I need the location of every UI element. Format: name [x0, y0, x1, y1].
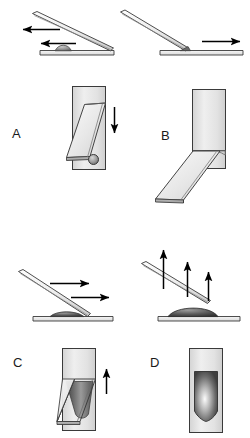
panel-a-base-plate: [40, 51, 114, 56]
panel-d-base-plate: [158, 317, 240, 322]
panel-a-top-view: [23, 12, 114, 56]
panel-b-tilted-rod: [121, 10, 191, 51]
panel-d: [142, 250, 241, 433]
panel-d-droplet: [195, 372, 218, 422]
panel-label-b: B: [161, 128, 170, 143]
panel-b-swung-plate: [156, 151, 221, 203]
panel-a-base-bump: [55, 45, 72, 51]
panel-a-tilted-rod: [33, 12, 114, 51]
panel-d-base-dome: [168, 308, 218, 317]
panel-label-a: A: [12, 126, 21, 141]
panel-b-top-view: [121, 10, 244, 55]
figure-canvas: A B C D: [0, 0, 250, 438]
panel-b-cross-section: [156, 90, 226, 204]
panel-c: [19, 270, 114, 431]
panel-c-tilted-rod: [19, 270, 91, 317]
panel-c-base-bump: [50, 312, 84, 317]
panel-c-cross-section: [57, 349, 107, 431]
panel-b-base-plate: [160, 51, 243, 56]
panel-d-top-view: [142, 250, 241, 321]
panel-label-d: D: [150, 355, 160, 370]
panel-a-cross-section: [67, 87, 115, 170]
panel-a-ball: [89, 155, 99, 165]
panel-d-floating-rod: [142, 262, 211, 304]
panel-label-c: C: [13, 355, 23, 370]
panel-a: [23, 12, 115, 170]
panel-b: [121, 10, 244, 203]
schematic-diagram: [0, 0, 250, 438]
panel-d-cross-section: [190, 349, 223, 433]
panel-c-top-view: [19, 270, 114, 322]
panel-c-base-plate: [33, 317, 113, 322]
